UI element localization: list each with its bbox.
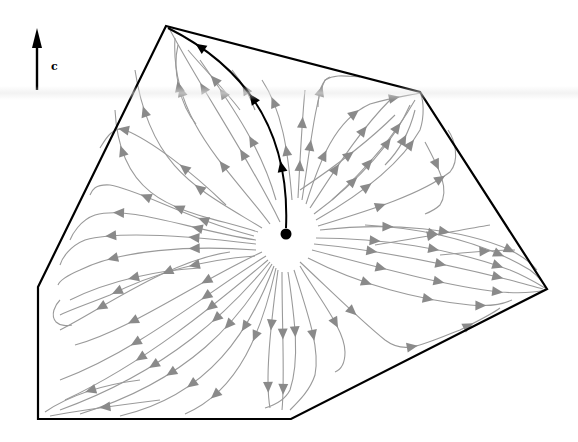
streamline <box>314 105 410 214</box>
flow-arrow-icon <box>433 276 445 286</box>
flow-arrow-icon <box>166 366 178 376</box>
flow-arrow-icon <box>388 94 400 104</box>
flow-arrow-icon <box>434 258 446 268</box>
flow-arrow-icon <box>475 301 486 311</box>
flow-arrow-icon <box>360 183 372 194</box>
streamlines-group <box>45 30 546 416</box>
flow-arrow-icon <box>107 252 119 262</box>
flow-arrow-icon <box>278 329 288 340</box>
flow-arrow-icon <box>149 358 161 368</box>
streamline <box>60 256 255 315</box>
polytope-boundary <box>38 26 547 419</box>
flow-arrow-icon <box>314 86 323 98</box>
streamline <box>332 100 415 200</box>
streamline <box>58 248 256 285</box>
streamline <box>312 250 545 293</box>
flow-arrow-icon <box>374 203 386 212</box>
flow-arrow-icon <box>491 259 503 268</box>
flow-arrow-icon <box>356 126 367 138</box>
flow-arrow-icon <box>427 243 439 253</box>
flow-arrow-icon <box>189 243 200 253</box>
flow-arrow-icon <box>491 271 503 281</box>
flow-arrow-icon <box>119 146 128 158</box>
flow-arrow-icon <box>250 94 260 106</box>
flow-arrow-icon <box>297 117 307 128</box>
flow-arrow-icon <box>267 319 277 330</box>
streamline <box>75 252 262 345</box>
flow-arrow-icon <box>294 160 304 171</box>
streamline <box>185 268 276 414</box>
streamline <box>135 70 262 228</box>
flow-arrow-icon <box>328 316 338 328</box>
streamline <box>60 256 266 380</box>
streamline <box>80 264 272 414</box>
flow-arrow-icon <box>366 246 378 256</box>
flow-arrow-icon <box>290 326 300 337</box>
streamline <box>298 90 305 198</box>
flow-arrow-icon <box>492 286 504 296</box>
streamline <box>290 270 316 410</box>
streamline <box>365 225 546 288</box>
flow-arrow-icon <box>240 149 250 161</box>
cost-arrow-head-icon <box>32 28 42 48</box>
flow-arrow-icon <box>307 329 317 341</box>
streamline <box>170 30 280 222</box>
cost-direction-arrow <box>32 28 42 90</box>
flow-arrow-icon <box>406 343 418 353</box>
streamline <box>300 266 345 372</box>
flow-arrow-icon <box>278 384 288 395</box>
flow-arrow-icon <box>282 145 292 157</box>
flow-arrow-icon <box>263 382 273 393</box>
flow-arrow-icon <box>131 336 143 346</box>
flow-arrow-icon <box>96 300 108 310</box>
flow-arrow-icon <box>200 83 210 95</box>
flow-arrow-icon <box>422 293 434 303</box>
flow-arrow-icon <box>142 106 151 118</box>
flow-arrow-icon <box>304 140 314 152</box>
streamline <box>60 235 256 265</box>
flow-arrow-icon <box>220 161 231 173</box>
streamline <box>53 300 72 326</box>
cost-direction-label: c <box>51 60 58 73</box>
flow-arrow-icon <box>201 289 213 299</box>
flow-arrow-icon <box>375 262 387 272</box>
flow-arrow-icon <box>113 208 124 218</box>
center-point <box>281 229 292 240</box>
streamline <box>175 38 270 224</box>
flow-arrow-icon <box>136 350 148 360</box>
flow-arrow-icon <box>195 44 207 54</box>
flow-arrow-icon <box>187 377 199 387</box>
flow-arrow-icon <box>118 126 130 136</box>
streamline <box>120 266 274 416</box>
flow-arrow-icon <box>195 185 207 196</box>
flow-arrow-icon <box>278 161 288 173</box>
flow-arrow-icon <box>220 88 230 100</box>
flow-arrow-icon <box>188 233 199 243</box>
flow-arrow-icon <box>390 123 400 135</box>
flow-arrow-icon <box>105 230 116 240</box>
streamline <box>45 380 140 412</box>
flow-arrow-icon <box>369 235 380 245</box>
flow-field-diagram <box>0 0 578 442</box>
flow-arrow-icon <box>225 317 236 328</box>
flow-arrow-icon <box>128 272 140 282</box>
flow-arrow-icon <box>192 224 204 234</box>
flow-arrow-icon <box>382 222 393 232</box>
flow-arrow-icon <box>242 319 252 331</box>
flow-arrow-icon <box>360 276 372 285</box>
streamline <box>90 185 254 236</box>
streamline <box>60 252 230 330</box>
flow-arrow-icon <box>397 135 407 147</box>
flow-arrow-icon <box>206 300 218 311</box>
flow-arrow-icon <box>201 274 213 284</box>
streamline <box>65 260 268 400</box>
streamline <box>262 80 292 200</box>
flow-arrow-icon <box>438 226 450 236</box>
